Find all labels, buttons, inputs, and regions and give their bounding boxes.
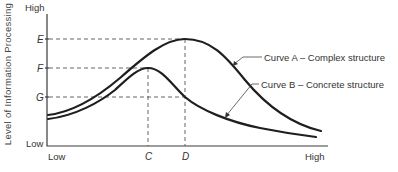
tick-c-label: C <box>145 151 153 162</box>
y-low-label: Low <box>26 138 44 149</box>
curve-a-leader <box>234 57 262 64</box>
tick-e-label: E <box>37 34 44 45</box>
curve-b-arrow-icon <box>225 112 230 118</box>
tick-d-label: D <box>182 151 189 162</box>
x-high-label: High <box>305 151 325 162</box>
y-axis-title: Level of Information Processing <box>2 3 13 145</box>
curve-b-label: Curve B – Concrete structure <box>261 79 384 90</box>
curve-a-label: Curve A – Complex structure <box>264 52 385 63</box>
y-high-label: High <box>25 2 45 13</box>
tick-f-label: F <box>37 63 44 74</box>
tick-g-label: G <box>36 92 44 103</box>
info-processing-diagram: Level of Information Processing High Low… <box>0 0 398 172</box>
x-low-label: Low <box>48 151 66 162</box>
